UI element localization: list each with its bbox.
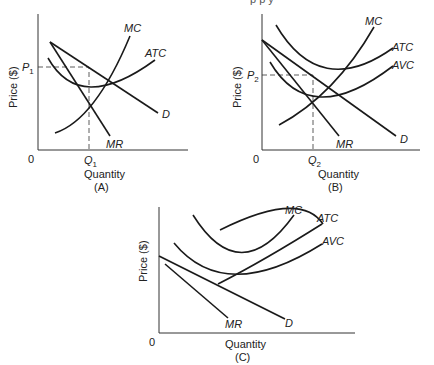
panel-a-mr-label: MR bbox=[106, 138, 123, 150]
panel-a-atc-label: ATC bbox=[144, 47, 166, 59]
panel-b: MC ATC AVC D MR P2 Q2 0 Quantity (B) Pri… bbox=[231, 14, 420, 193]
panel-a-mc-label: MC bbox=[124, 22, 141, 34]
panel-b-demand-curve bbox=[262, 40, 396, 136]
panel-c-d-label: D bbox=[285, 317, 293, 329]
panel-b-caption: (B) bbox=[328, 181, 343, 193]
panel-a-qty-label: Q1 bbox=[84, 154, 98, 169]
panel-b-atc-label: ATC bbox=[391, 41, 413, 53]
panel-b-mc-label: MC bbox=[365, 15, 382, 27]
panel-b-price-label: P2 bbox=[247, 69, 259, 84]
panel-b-mr-label: MR bbox=[336, 138, 353, 150]
panel-c-atc-curve bbox=[220, 208, 323, 230]
panel-a-price-label: P1 bbox=[22, 61, 34, 76]
panel-b-ylabel: Price ($) bbox=[231, 66, 243, 108]
panel-b-xlabel: Quantity bbox=[318, 168, 359, 180]
panel-c-xlabel: Quantity bbox=[225, 338, 266, 350]
panel-c-caption: (C) bbox=[235, 351, 250, 363]
diagram-canvas: MC ATC D MR P1 Q1 0 Quantity (A) Price (… bbox=[0, 0, 434, 365]
panel-a-xlabel: Quantity bbox=[84, 168, 125, 180]
panel-a-origin: 0 bbox=[28, 153, 34, 165]
panel-b-avc-curve bbox=[270, 62, 393, 97]
panel-b-qty-label: Q2 bbox=[308, 154, 322, 169]
panel-c-mr-label: MR bbox=[225, 318, 242, 330]
panel-b-d-label: D bbox=[400, 133, 408, 145]
panel-c-avc-curve bbox=[174, 243, 322, 274]
panel-a-atc-curve bbox=[48, 58, 155, 87]
panel-c-mc-curve bbox=[193, 215, 294, 253]
panel-c: MC ATC AVC D MR 0 Quantity (C) Price ($) bbox=[137, 204, 355, 363]
panel-c-ylabel: Price ($) bbox=[137, 240, 149, 282]
panel-c-demand-curve bbox=[159, 256, 285, 319]
panel-c-origin: 0 bbox=[149, 336, 155, 348]
panel-a: MC ATC D MR P1 Q1 0 Quantity (A) Price (… bbox=[7, 14, 188, 193]
panel-a-d-label: D bbox=[162, 108, 170, 120]
panel-a-ylabel: Price ($) bbox=[7, 66, 19, 108]
panel-a-mc-curve bbox=[55, 36, 130, 133]
panel-a-caption: (A) bbox=[94, 181, 109, 193]
panel-a-mr-curve bbox=[50, 42, 110, 136]
panel-b-origin: 0 bbox=[253, 153, 259, 165]
panel-a-axes bbox=[38, 14, 188, 150]
panel-a-guides bbox=[38, 67, 89, 150]
panel-c-atc-label: ATC bbox=[316, 212, 338, 224]
panel-b-guides bbox=[262, 75, 313, 150]
panel-c-avc-label: AVC bbox=[321, 235, 344, 247]
panel-b-avc-label: AVC bbox=[391, 59, 414, 71]
panel-a-demand-curve bbox=[50, 42, 158, 113]
panel-c-mc-label: MC bbox=[285, 204, 302, 216]
